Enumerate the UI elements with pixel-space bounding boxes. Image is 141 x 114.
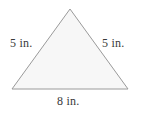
bottom-side-length-label: 8 in.: [57, 95, 79, 107]
geometry-figure: 5 in. 5 in. 8 in.: [0, 0, 141, 114]
left-side-length-label: 5 in.: [10, 37, 32, 49]
right-side-length-label: 5 in.: [102, 37, 124, 49]
